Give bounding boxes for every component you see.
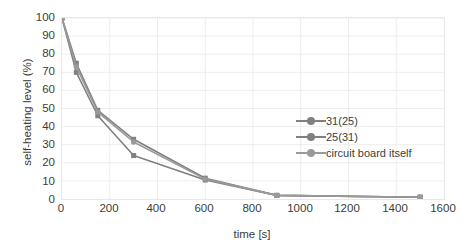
y-tick-label: 30: [0, 139, 55, 149]
gridlines: [62, 18, 444, 199]
series-line: [62, 18, 420, 197]
data-point-marker: [203, 176, 208, 181]
legend-item[interactable]: 25(31): [296, 129, 412, 145]
x-tick-label: 1200: [325, 202, 369, 214]
y-tick-label: 50: [0, 103, 55, 113]
legend-item[interactable]: circuit board itself: [296, 145, 412, 161]
data-point-marker: [274, 193, 279, 198]
legend-marker-icon: [296, 115, 326, 127]
y-tick-label: 70: [0, 66, 55, 76]
data-point-marker: [131, 139, 136, 144]
data-point-marker: [131, 153, 136, 158]
legend-item-label: 31(25): [326, 113, 358, 129]
legend-dot-swatch: [307, 133, 315, 141]
data-point-marker: [74, 64, 79, 69]
x-tick-label: 1600: [421, 202, 465, 214]
y-tick-label: 90: [0, 30, 55, 40]
y-tick-label: 60: [0, 84, 55, 94]
series-line: [62, 18, 420, 197]
legend-marker-icon: [296, 131, 326, 143]
y-tick-label: 80: [0, 48, 55, 58]
x-axis-title: time [s]: [61, 228, 443, 240]
chart-legend: 31(25) 25(31) circuit board itself: [296, 113, 412, 161]
data-point-marker: [95, 109, 100, 114]
y-tick-label: 40: [0, 121, 55, 131]
legend-item[interactable]: 31(25): [296, 113, 412, 129]
chart-canvas: [62, 18, 444, 199]
legend-dot-swatch: [307, 117, 315, 125]
legend-dot-swatch: [307, 149, 315, 157]
plot-area: [61, 17, 445, 200]
x-tick-label: 600: [182, 202, 226, 214]
x-tick-label: 0: [39, 202, 83, 214]
y-tick-label: 100: [0, 12, 55, 22]
legend-item-label: circuit board itself: [326, 145, 412, 161]
legend-marker-icon: [296, 147, 326, 159]
legend-item-label: 25(31): [326, 129, 358, 145]
x-tick-label: 200: [87, 202, 131, 214]
x-tick-label: 400: [134, 202, 178, 214]
x-tick-label: 800: [230, 202, 274, 214]
series-line: [62, 18, 420, 197]
chart-figure: self-heating level (%) 100 90 80 70 60 5…: [0, 0, 473, 249]
x-tick-label: 1400: [373, 202, 417, 214]
y-tick-label: 10: [0, 176, 55, 186]
y-tick-label: 20: [0, 157, 55, 167]
x-tick-label: 1000: [278, 202, 322, 214]
